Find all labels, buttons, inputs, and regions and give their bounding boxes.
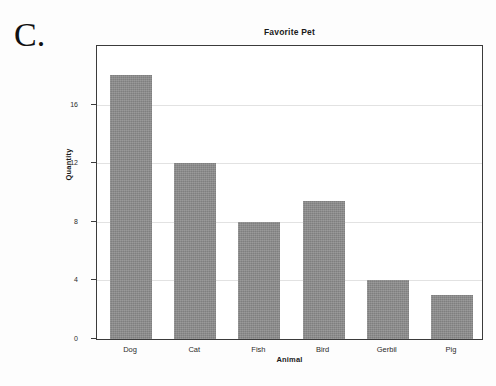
x-tick-label: Dog (123, 345, 137, 354)
y-tick-mark (91, 104, 96, 105)
bar (174, 163, 216, 339)
bar (238, 222, 280, 339)
figure-container: C. Favorite Pet 0481216 Quantity DogCatF… (0, 0, 496, 386)
y-axis-ticks: 0481216 (0, 0, 88, 386)
bar-series (97, 46, 482, 339)
y-tick-mark (91, 279, 96, 280)
y-tick-mark (91, 338, 96, 339)
x-tick-label: Pig (445, 345, 456, 354)
x-axis-title: Animal (96, 355, 483, 364)
bar (303, 201, 345, 339)
y-tick-label: 8 (74, 217, 78, 224)
bar (110, 75, 152, 339)
y-tick-label: 16 (70, 100, 78, 107)
bar (431, 295, 473, 339)
chart-title: Favorite Pet (96, 27, 483, 37)
x-tick-label: Fish (251, 345, 265, 354)
y-tick-mark (91, 221, 96, 222)
x-tick-label: Cat (188, 345, 200, 354)
y-tick-label: 4 (74, 276, 78, 283)
y-tick-mark (91, 162, 96, 163)
y-tick-label: 0 (74, 335, 78, 342)
plot-area (96, 45, 483, 340)
x-tick-label: Gerbil (377, 345, 397, 354)
x-tick-label: Bird (316, 345, 329, 354)
y-axis-title: Quantity (64, 165, 73, 181)
bar (367, 280, 409, 339)
